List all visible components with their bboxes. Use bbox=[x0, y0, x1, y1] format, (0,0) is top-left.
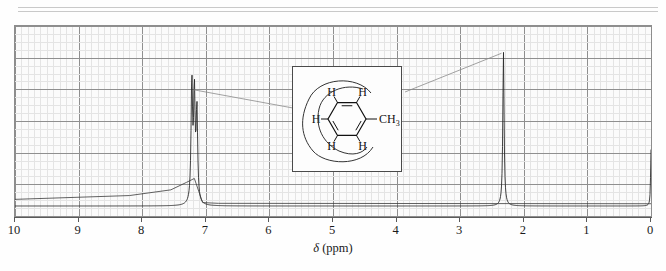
h-top-left-label: H bbox=[358, 85, 367, 99]
x-tick-label-0: 0 bbox=[647, 223, 653, 238]
x-tick-1 bbox=[586, 217, 587, 222]
x-axis-label: δ (ppm) bbox=[0, 241, 666, 256]
x-tick-label-10: 10 bbox=[8, 223, 21, 238]
x-tick-label-7: 7 bbox=[202, 223, 208, 238]
methyl-label: CH3 bbox=[379, 112, 400, 128]
h-left-label: H bbox=[312, 112, 321, 126]
x-tick-0 bbox=[650, 217, 651, 222]
x-axis: 109876543210 bbox=[14, 217, 652, 243]
x-tick-label-5: 5 bbox=[329, 223, 335, 238]
x-tick-8 bbox=[141, 217, 142, 222]
x-tick-label-2: 2 bbox=[520, 223, 526, 238]
x-tick-5 bbox=[332, 217, 333, 222]
toluene-structure-icon: HHHHHCH3 bbox=[293, 67, 401, 171]
top-rule-2 bbox=[18, 11, 658, 12]
x-tick-3 bbox=[459, 217, 460, 222]
x-tick-10 bbox=[14, 217, 15, 222]
benzene-ring bbox=[328, 103, 366, 136]
x-tick-label-6: 6 bbox=[265, 223, 271, 238]
leader-line-aromatic bbox=[194, 90, 293, 108]
x-tick-6 bbox=[268, 217, 269, 222]
top-rule-1 bbox=[18, 7, 658, 8]
leader-line-methyl bbox=[405, 53, 501, 92]
nmr-figure: HHHHHCH3 109876543210 δ (ppm) bbox=[0, 0, 666, 271]
x-tick-label-4: 4 bbox=[392, 223, 398, 238]
x-tick-4 bbox=[396, 217, 397, 222]
structure-inset-box: HHHHHCH3 bbox=[292, 66, 402, 172]
delta-symbol: δ bbox=[313, 241, 319, 255]
x-tick-label-8: 8 bbox=[138, 223, 144, 238]
ppm-units: (ppm) bbox=[322, 241, 353, 255]
x-tick-7 bbox=[205, 217, 206, 222]
x-tick-label-1: 1 bbox=[583, 223, 589, 238]
integration-trace bbox=[15, 178, 651, 203]
x-tick-2 bbox=[523, 217, 524, 222]
x-axis-line bbox=[14, 217, 652, 218]
x-tick-label-3: 3 bbox=[456, 223, 462, 238]
x-tick-9 bbox=[78, 217, 79, 222]
x-tick-label-9: 9 bbox=[74, 223, 80, 238]
